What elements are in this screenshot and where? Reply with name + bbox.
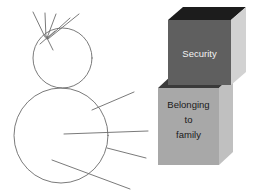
hair-line [33, 12, 45, 37]
block-belonging-to-family[interactable]: Belonging to family [158, 75, 233, 165]
block-security[interactable]: Security [168, 7, 246, 85]
head-hair-lines [33, 12, 79, 50]
stick-figure-sketch [14, 12, 148, 189]
diagram-svg: Belonging to family Security [0, 0, 265, 195]
body-radiating-lines [52, 92, 148, 189]
body-circle [14, 88, 108, 183]
head-circle [33, 28, 92, 88]
hair-line [40, 31, 55, 44]
block-belonging-side-face [219, 75, 233, 165]
block-security-side-face [231, 7, 246, 85]
block-security-label: Security [182, 48, 217, 59]
body-line [107, 148, 146, 158]
body-line [52, 160, 130, 189]
hair-line [48, 14, 79, 39]
body-line [92, 92, 134, 110]
block-belonging-label-line-1: Belonging [167, 99, 209, 110]
diagram-canvas: Belonging to family Security [0, 0, 265, 195]
body-line [64, 131, 148, 134]
block-belonging-label-line-3: family [176, 129, 201, 140]
block-belonging-label-line-2: to [185, 114, 193, 125]
